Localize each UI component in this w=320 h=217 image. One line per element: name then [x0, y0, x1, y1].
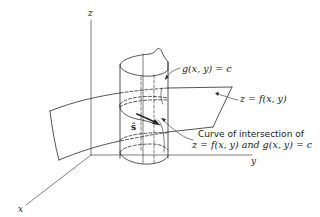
surface-front-edge-left [59, 141, 120, 160]
leader-intersection-arrowhead [161, 118, 166, 122]
surface-back-edge-right [168, 87, 232, 88]
cylinder-bottom-back-hidden [120, 144, 168, 152]
cylinder-bottom-front [120, 152, 168, 164]
cylinder-band-lower-hidden [120, 133, 168, 140]
y-axis-label: y [250, 156, 257, 166]
surface-label: z = f(x, y) [239, 93, 287, 104]
surface-back-edge-left [50, 93, 120, 111]
s-hat-label: ŝ [131, 122, 136, 132]
z-axis-label: z [87, 8, 93, 18]
axes: z y x [18, 8, 257, 214]
leader-surface-arrowhead [215, 92, 219, 96]
unit-vector-s: ŝ [131, 114, 160, 132]
cylinder-band-upper-hidden [120, 100, 168, 107]
leader-surface [217, 94, 238, 100]
cylinder-right-contour-upper [161, 88, 163, 104]
cylinder-top-front [120, 65, 168, 76]
x-axis-label: x [18, 204, 23, 214]
cylinder-g [120, 49, 168, 165]
intersection-label-line1: Curve of intersection of [198, 129, 305, 139]
x-axis [26, 155, 91, 205]
cylinder-top-back [120, 49, 168, 70]
cylinder-label: g(x, y) = c [182, 63, 232, 74]
surface-left-edge [50, 111, 59, 160]
level-curve-diagram: z y x [0, 0, 320, 217]
annotations: g(x, y) = c z = f(x, y) Curve of interse… [182, 63, 313, 150]
intersection-label-line2: z = f(x, y) and g(x, y) = c [191, 139, 313, 150]
